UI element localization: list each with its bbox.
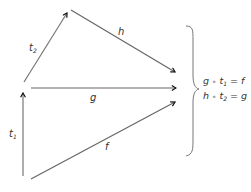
arrow-label-f: f xyxy=(105,141,110,152)
curly-brace xyxy=(186,26,199,156)
arrow-f: f xyxy=(31,102,175,179)
arrow-h: h xyxy=(71,10,175,72)
arrow-g: g xyxy=(31,88,176,103)
svg-text:t2: t2 xyxy=(29,42,37,54)
arrow-t1: t1 xyxy=(9,93,23,176)
commutative-diagram: t1 t2 h g f g ∘ t1 = f h ∘ t2 = g xyxy=(0,0,251,192)
equation-2: h ∘ t2 = g xyxy=(203,90,247,102)
arrow-label-h: h xyxy=(118,26,124,37)
arrow-t2: t2 xyxy=(24,13,67,82)
equation-1: g ∘ t1 = f xyxy=(203,75,246,87)
arrow-label-g: g xyxy=(90,92,96,103)
svg-text:t1: t1 xyxy=(9,128,17,140)
